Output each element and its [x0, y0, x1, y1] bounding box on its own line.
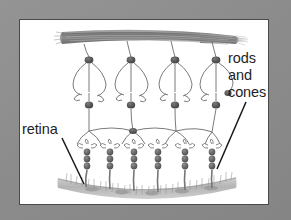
neuron-chain-2 — [115, 41, 176, 144]
ganglion-dendrite-4a — [200, 63, 213, 95]
ganglion-nucleus-2 — [127, 57, 136, 64]
bipolar-branch-3b — [176, 131, 189, 144]
neuron-network — [73, 41, 233, 144]
label-and: and — [228, 68, 252, 83]
ganglion-dendrite-1a — [73, 63, 86, 95]
neuron-chain-1 — [73, 44, 133, 144]
ganglion-nucleus-4 — [212, 57, 221, 64]
bipolar-axon-2 — [131, 109, 133, 131]
horizontal-link-3 — [176, 129, 212, 132]
bipolar-branch-3a — [165, 131, 176, 144]
dendrite-tip-2b — [140, 95, 146, 102]
label-retina: retina — [22, 122, 58, 137]
ganglion-axon-4 — [212, 42, 216, 57]
ganglion-dendrite-3a — [159, 63, 172, 95]
label-cones: cones — [228, 85, 266, 100]
dendrite-tip-4a — [201, 94, 207, 101]
figure-root: rods and cones retina — [0, 0, 291, 220]
ganglion-dendrite-1b — [92, 63, 106, 96]
ganglion-nucleus-3 — [171, 57, 180, 64]
ganglion-axon-3 — [171, 41, 175, 57]
bipolar-branch-1a — [77, 131, 89, 144]
bipolar-nucleus-3 — [171, 101, 179, 108]
retina-diagram — [0, 0, 291, 220]
photoreceptor-2 — [100, 139, 120, 189]
bipolar-axon-4 — [212, 109, 216, 132]
ganglion-axon-1 — [84, 44, 89, 57]
retina-leader-line — [62, 138, 84, 184]
photoreceptor-4 — [148, 139, 168, 192]
dendrite-tip-3a — [160, 94, 166, 101]
photoreceptor-3 — [124, 139, 144, 191]
bipolar-nucleus-2 — [127, 101, 135, 108]
ganglion-dendrite-2b — [134, 63, 148, 96]
ganglion-dendrite-3b — [178, 63, 192, 96]
horizontal-link-2 — [133, 128, 176, 131]
dendrite-tip-3b — [184, 95, 190, 102]
rods-and-cones-leader-line — [217, 102, 246, 169]
dendrite-tip-1a — [74, 94, 80, 101]
ganglion-dendrite-2a — [115, 63, 128, 95]
bipolar-nucleus-1 — [85, 101, 93, 108]
ganglion-axon-2 — [127, 41, 131, 57]
label-rods: rods — [228, 51, 256, 66]
ganglion-nucleus-1 — [85, 57, 94, 64]
dendrite-tip-1b — [98, 95, 104, 102]
horizontal-link-1 — [89, 128, 133, 131]
bipolar-nucleus-4 — [212, 101, 220, 108]
bipolar-axon-3 — [175, 109, 176, 131]
bipolar-branch-1b — [89, 131, 101, 144]
photoreceptor-layer — [77, 139, 222, 192]
dendrite-tip-2a — [116, 94, 122, 101]
optic-nerve-bundle — [54, 30, 252, 45]
retinal-base-group — [58, 172, 237, 199]
